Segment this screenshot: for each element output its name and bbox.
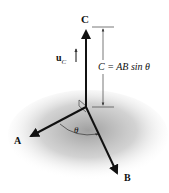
label-uc-sub: C bbox=[62, 58, 67, 66]
cross-product-diagram: C uC C = AB sin θ θ A B bbox=[0, 0, 169, 193]
diagram-graphics bbox=[0, 0, 169, 193]
label-a: A bbox=[14, 136, 21, 146]
equation-label: C = AB sin θ bbox=[97, 62, 151, 72]
label-uc: uC bbox=[56, 53, 66, 66]
label-theta: θ bbox=[74, 126, 78, 135]
label-c: C bbox=[81, 14, 89, 25]
label-b: B bbox=[124, 173, 131, 183]
